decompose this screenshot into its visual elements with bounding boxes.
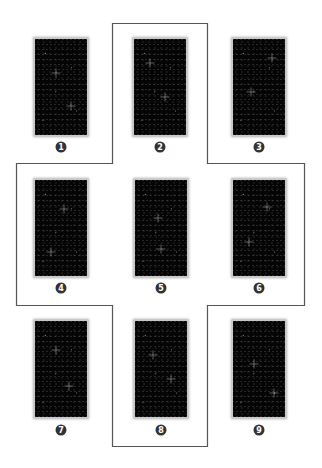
position-badge-4: 4 [56,283,67,294]
sparkle-icon [161,92,170,101]
position-badge-2: 2 [155,142,166,153]
sparkle-icon [46,248,55,257]
sparkle-icon [262,202,271,211]
card-position-9 [231,319,287,419]
position-badge-3: 3 [254,142,265,153]
sparkle-icon [51,345,60,354]
sparkle-icon [167,374,176,383]
sparkle-icon [59,204,68,213]
sparkle-icon [67,102,76,111]
sparkle-icon [145,59,154,68]
card-position-2 [132,37,188,137]
sparkle-icon [64,382,73,391]
sparkle-icon [244,238,253,247]
card-position-6 [231,178,287,278]
sparkle-icon [268,54,277,63]
card-position-5 [133,178,189,278]
position-badge-9: 9 [254,425,265,436]
position-badge-6: 6 [254,283,265,294]
sparkle-icon [157,245,166,254]
card-position-3 [231,37,287,137]
card-position-1 [33,37,89,137]
sparkle-icon [269,389,278,398]
position-badge-5: 5 [156,283,167,294]
position-badge-8: 8 [156,425,167,436]
sparkle-icon [249,360,258,369]
position-badge-7: 7 [56,425,67,436]
card-position-7 [33,319,89,419]
tarot-spread-diagram: 1 2 3 4 5 6 7 8 9 [0,0,322,468]
card-position-8 [133,319,189,419]
sparkle-icon [51,68,60,77]
sparkle-icon [149,350,158,359]
position-badge-1: 1 [56,142,67,153]
sparkle-icon [247,87,256,96]
card-position-4 [33,178,89,278]
sparkle-icon [154,214,163,223]
